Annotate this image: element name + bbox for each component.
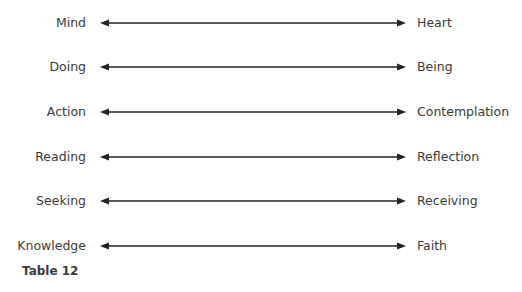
left-label: Doing	[49, 57, 86, 77]
double-arrow-icon	[100, 151, 406, 163]
double-arrow-icon	[100, 106, 406, 118]
table-caption: Table 12	[22, 264, 78, 278]
double-arrow-icon	[100, 195, 406, 207]
left-label: Knowledge	[17, 236, 86, 256]
left-label: Action	[47, 102, 86, 122]
double-arrow-icon	[100, 240, 406, 252]
spectrum-row: Mind Heart	[0, 13, 522, 33]
spectrum-row: Seeking Receiving	[0, 191, 522, 211]
spectrum-row: Doing Being	[0, 57, 522, 77]
right-label: Reflection	[417, 147, 479, 167]
left-label: Mind	[56, 13, 86, 33]
spectrum-row: Action Contemplation	[0, 102, 522, 122]
right-label: Being	[417, 57, 453, 77]
left-label: Reading	[35, 147, 86, 167]
right-label: Heart	[417, 13, 452, 33]
left-label: Seeking	[36, 191, 86, 211]
spectrum-row: Knowledge Faith	[0, 236, 522, 256]
spectrum-row: Reading Reflection	[0, 147, 522, 167]
right-label: Receiving	[417, 191, 478, 211]
right-label: Contemplation	[417, 102, 509, 122]
double-arrow-icon	[100, 17, 406, 29]
double-arrow-icon	[100, 61, 406, 73]
right-label: Faith	[417, 236, 447, 256]
